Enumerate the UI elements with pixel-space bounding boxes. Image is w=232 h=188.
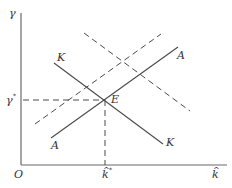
gamma-star-sup: * <box>13 92 16 99</box>
kk-curve <box>54 63 163 144</box>
gamma-star-label: γ <box>6 94 13 107</box>
y-axis-label: γ <box>9 7 16 20</box>
diagram-canvas: γ γ * O ^ k * ^ k K K A A E <box>0 0 232 188</box>
x-axis-label: k <box>212 168 219 181</box>
equilibrium-label: E <box>110 93 119 106</box>
aa-shifted-curve <box>35 34 161 124</box>
aa-label-start: A <box>50 139 59 152</box>
origin-label: O <box>14 168 23 181</box>
k-star-label: k <box>102 168 109 181</box>
k-star-sup: * <box>109 166 112 173</box>
kk-label-start: K <box>56 51 66 64</box>
kk-shifted-curve <box>84 33 190 111</box>
aa-label-end: A <box>176 49 185 62</box>
kk-label-end: K <box>165 136 175 149</box>
